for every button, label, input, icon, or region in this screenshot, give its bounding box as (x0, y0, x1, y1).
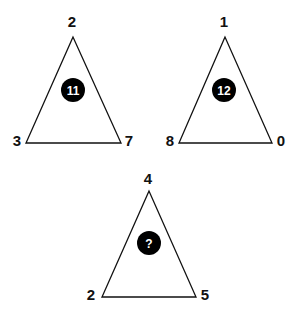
triangle-2: 1 8 0 12 (166, 13, 285, 149)
triangle-3-bottom-left-number: 2 (87, 286, 95, 303)
triangle-1-bottom-left-number: 3 (13, 132, 21, 149)
triangle-2-bottom-right-number: 0 (277, 132, 285, 149)
triangle-2-bottom-left-number: 8 (166, 132, 174, 149)
question-mark-icon: ? (145, 237, 152, 251)
triangle-3-bottom-right-number: 5 (201, 286, 209, 303)
triangle-1-center-number: 11 (67, 84, 80, 98)
triangle-1: 2 3 7 11 (13, 13, 133, 149)
triangle-3: 4 2 5 ? (87, 170, 209, 303)
triangle-3-top-number: 4 (144, 170, 153, 187)
triangle-2-top-number: 1 (220, 13, 228, 30)
triangle-1-bottom-right-number: 7 (125, 132, 133, 149)
triangle-1-top-number: 2 (68, 13, 76, 30)
triangle-2-center-number: 12 (217, 84, 231, 98)
number-triangle-puzzle: 2 3 7 11 1 8 0 12 4 2 5 ? (0, 0, 299, 313)
